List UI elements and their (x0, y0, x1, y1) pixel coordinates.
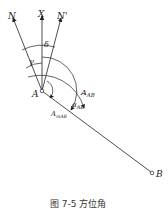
label-alpha-ab: αAB (72, 101, 84, 110)
label-gamma: γ (29, 57, 34, 66)
label-x: X (37, 9, 45, 19)
label-point-b: B (155, 169, 163, 179)
delta-arc (22, 45, 55, 50)
label-a-mab: AmAB (50, 110, 68, 119)
label-delta: δ (44, 40, 49, 49)
line-ab (42, 91, 151, 172)
true-north-line (13, 18, 42, 91)
figure-caption: 图 7-5 方位角 (50, 198, 106, 209)
label-a-ab: AAB (80, 88, 95, 98)
azimuth-diagram: N X N' δ γ AAB αAB AmAB A B 图 7-5 方位角 (0, 0, 168, 209)
label-n: N (7, 11, 17, 21)
label-n-prime: N' (56, 11, 67, 21)
magnetic-north-line (42, 18, 61, 91)
point-a-marker (40, 89, 44, 93)
point-b-marker (150, 171, 154, 175)
label-point-a: A (31, 89, 39, 99)
